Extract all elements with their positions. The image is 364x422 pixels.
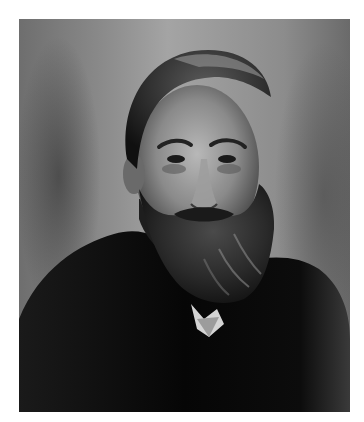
portrait-photo bbox=[19, 19, 350, 412]
portrait-illustration bbox=[19, 19, 350, 412]
